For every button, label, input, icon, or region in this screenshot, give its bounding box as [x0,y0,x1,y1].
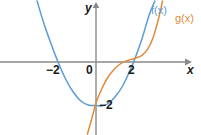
y-axis-arrow-icon [93,2,100,8]
x-axis-label: x [187,64,194,76]
plot-canvas [0,0,201,135]
y-axis-label: y [85,2,92,14]
series-label-fx: f(x) [151,5,167,16]
x-tick-label-pos2: 2 [128,64,135,76]
origin-label: 0 [86,64,93,76]
curve-g [87,1,162,134]
graph-figure: y x −2 0 2 −2 f(x) g(x) [0,0,201,135]
series-label-gx: g(x) [175,13,194,24]
x-tick-label-neg2: −2 [46,64,60,76]
y-tick-label-neg2: −2 [99,99,113,111]
